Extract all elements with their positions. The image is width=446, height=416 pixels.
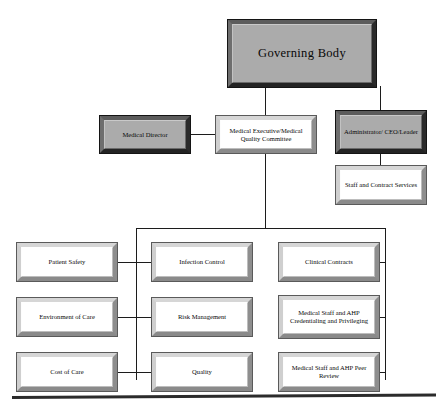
node-medical-executive[interactable]: Medical Executive/Medical Quality Commit… bbox=[216, 116, 316, 153]
connector-row1-left-stub bbox=[117, 262, 136, 263]
node-quality-label: Quality bbox=[192, 368, 212, 376]
node-medical-executive-inner: Medical Executive/Medical Quality Commit… bbox=[220, 120, 312, 149]
node-governing-body-inner: Governing Body bbox=[232, 24, 372, 83]
node-peer-review-label: Medical Staff and AHP Peer Review bbox=[287, 364, 371, 379]
connector-main-bus bbox=[136, 228, 386, 229]
node-credentialing-label: Medical Staff and AHP Credentialing and … bbox=[287, 309, 371, 324]
node-risk-management[interactable]: Risk Management bbox=[152, 298, 252, 336]
node-staff-contract-inner: Staff and Contract Services bbox=[340, 170, 422, 200]
connector-governing-to-administrator bbox=[380, 86, 381, 112]
node-administrator-ceo-leader[interactable]: Administrator/ CEO/Leader bbox=[336, 111, 426, 153]
node-medical-executive-label: Medical Executive/Medical Quality Commit… bbox=[224, 127, 308, 142]
node-cost-of-care-label: Cost of Care bbox=[50, 368, 83, 376]
org-chart-canvas: Governing Body Medical Director Medical … bbox=[0, 0, 446, 416]
node-cost-of-care[interactable]: Cost of Care bbox=[17, 353, 117, 391]
node-environment-of-care-inner: Environment of Care bbox=[21, 302, 113, 332]
connector-row3-right-stub bbox=[379, 372, 385, 373]
node-quality[interactable]: Quality bbox=[152, 353, 252, 391]
connector-row3-mid-stub bbox=[136, 372, 152, 373]
node-governing-body[interactable]: Governing Body bbox=[228, 20, 376, 87]
node-peer-review-inner: Medical Staff and AHP Peer Review bbox=[283, 357, 375, 387]
connector-executive-trunk bbox=[265, 153, 266, 229]
node-clinical-contracts-inner: Clinical Contracts bbox=[283, 247, 375, 277]
node-cost-of-care-inner: Cost of Care bbox=[21, 357, 113, 387]
node-credentialing-inner: Medical Staff and AHP Credentialing and … bbox=[283, 300, 375, 334]
node-clinical-contracts[interactable]: Clinical Contracts bbox=[279, 243, 379, 281]
footer-rule bbox=[12, 393, 436, 399]
node-patient-safety[interactable]: Patient Safety bbox=[17, 243, 117, 281]
node-governing-body-label: Governing Body bbox=[258, 46, 346, 61]
node-risk-management-inner: Risk Management bbox=[156, 302, 248, 332]
node-quality-inner: Quality bbox=[156, 357, 248, 387]
connector-governing-to-medical-executive bbox=[265, 86, 266, 116]
connector-row2-mid-stub bbox=[136, 317, 152, 318]
connector-administrator-to-staff bbox=[380, 153, 381, 166]
node-credentialing-and-privileging[interactable]: Medical Staff and AHP Credentialing and … bbox=[279, 296, 379, 338]
connector-row1-right-stub bbox=[379, 262, 385, 263]
node-medical-director[interactable]: Medical Director bbox=[100, 116, 190, 153]
node-infection-control-label: Infection Control bbox=[179, 258, 225, 266]
node-infection-control-inner: Infection Control bbox=[156, 247, 248, 277]
node-risk-management-label: Risk Management bbox=[178, 313, 226, 321]
node-patient-safety-inner: Patient Safety bbox=[21, 247, 113, 277]
node-administrator-label: Administrator/ CEO/Leader bbox=[344, 128, 418, 136]
node-patient-safety-label: Patient Safety bbox=[49, 258, 86, 266]
connector-row2-left-stub bbox=[117, 317, 136, 318]
node-administrator-inner: Administrator/ CEO/Leader bbox=[340, 115, 422, 149]
node-environment-of-care[interactable]: Environment of Care bbox=[17, 298, 117, 336]
connector-medical-director-to-executive bbox=[190, 134, 216, 135]
connector-left-riser bbox=[136, 228, 137, 380]
connector-row1-mid-stub bbox=[136, 262, 152, 263]
connector-right-riser bbox=[385, 228, 386, 380]
node-infection-control[interactable]: Infection Control bbox=[152, 243, 252, 281]
node-staff-and-contract-services[interactable]: Staff and Contract Services bbox=[336, 166, 426, 204]
connector-row3-left-stub bbox=[117, 372, 136, 373]
connector-row2-right-stub bbox=[379, 317, 385, 318]
node-staff-contract-label: Staff and Contract Services bbox=[345, 181, 417, 189]
node-medical-director-label: Medical Director bbox=[122, 131, 167, 139]
node-peer-review[interactable]: Medical Staff and AHP Peer Review bbox=[279, 353, 379, 391]
node-clinical-contracts-label: Clinical Contracts bbox=[305, 258, 353, 266]
node-environment-of-care-label: Environment of Care bbox=[39, 313, 95, 321]
node-medical-director-inner: Medical Director bbox=[104, 120, 186, 149]
